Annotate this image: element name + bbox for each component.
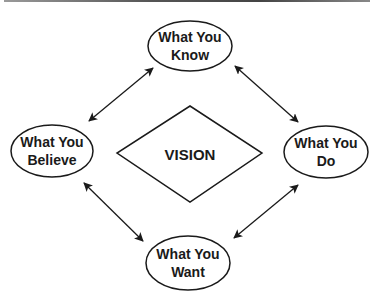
- node-what-you-want: What You Want: [146, 236, 230, 290]
- arrow-know-do: [235, 66, 298, 122]
- node-want-line2: Want: [171, 264, 205, 280]
- node-believe-line2: Believe: [27, 152, 76, 168]
- node-do-line2: Do: [317, 153, 336, 169]
- vision-diagram: VISION What You Know What You Believe Wh…: [0, 0, 374, 292]
- node-want-line1: What You: [156, 246, 219, 262]
- node-believe-line1: What You: [20, 134, 83, 150]
- node-know-line1: What You: [158, 29, 221, 45]
- node-do-line1: What You: [294, 135, 357, 151]
- arrow-do-want: [234, 185, 298, 238]
- vision-label: VISION: [165, 146, 216, 163]
- vision-diamond: VISION: [117, 106, 262, 202]
- arrow-believe-know: [89, 68, 153, 121]
- node-know-line2: Know: [171, 47, 209, 63]
- node-what-you-do: What You Do: [284, 126, 368, 178]
- node-what-you-know: What You Know: [148, 21, 232, 71]
- arrow-believe-want: [84, 183, 143, 241]
- node-what-you-believe: What You Believe: [11, 125, 93, 177]
